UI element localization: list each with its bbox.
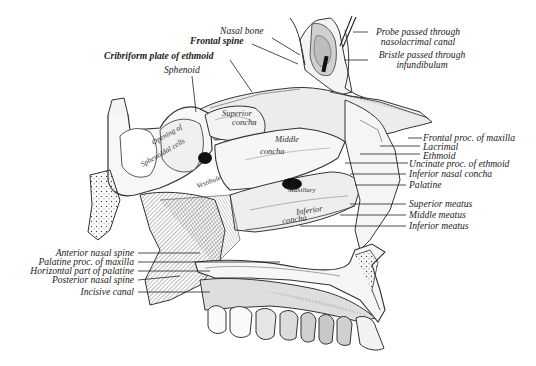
inner-middle-concha-1: Middle: [275, 134, 299, 144]
label-incisive-canal: Incisive canal: [0, 287, 134, 297]
label-frontal-spine: Frontal spine: [190, 36, 244, 46]
label-inferior-meatus: Inferior meatus: [409, 221, 468, 231]
label-inferior-nasal-concha: Inferior nasal concha: [409, 169, 492, 179]
nasal-cavity-diagram: Nasal bone Frontal spine Cribriform plat…: [0, 0, 536, 366]
label-middle-meatus: Middle meatus: [409, 210, 466, 220]
label-bristle-line2: infundibulum: [370, 60, 474, 70]
inner-maxillary: Maxillary: [288, 186, 316, 194]
label-posterior-nasal-spine: Posterior nasal spine: [0, 275, 134, 285]
label-sphenoid: Sphenoid: [164, 65, 200, 75]
label-cribriform-plate: Cribriform plate of ethmoid: [104, 51, 214, 61]
label-superior-meatus: Superior meatus: [409, 199, 472, 209]
inner-superior-concha-2: concha: [232, 117, 257, 127]
label-probe-line2: nasolacrimal canal: [370, 37, 466, 47]
inner-middle-concha-2: concha: [260, 146, 285, 156]
label-palatine: Palatine: [409, 180, 442, 190]
